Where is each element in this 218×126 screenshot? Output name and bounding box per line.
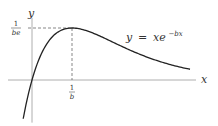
- chart: x y 1 be 1 b y = xe −bx: [0, 0, 218, 126]
- eq-y: y: [125, 31, 133, 44]
- x-max-label-numerator: 1: [70, 84, 74, 92]
- function-annotation: y = xe −bx: [125, 30, 183, 44]
- y-max-label-denominator: be: [12, 29, 21, 37]
- x-max-label: 1 b: [69, 84, 75, 101]
- y-axis-label: y: [27, 7, 35, 20]
- y-max-label: 1 be: [11, 20, 21, 37]
- x-axis-label: x: [201, 73, 208, 86]
- eq-exponent: −bx: [168, 30, 182, 38]
- eq-xe: xe: [153, 31, 166, 44]
- x-max-label-denominator: b: [70, 93, 75, 101]
- y-max-label-numerator: 1: [14, 20, 18, 28]
- eq-equals: =: [138, 31, 147, 44]
